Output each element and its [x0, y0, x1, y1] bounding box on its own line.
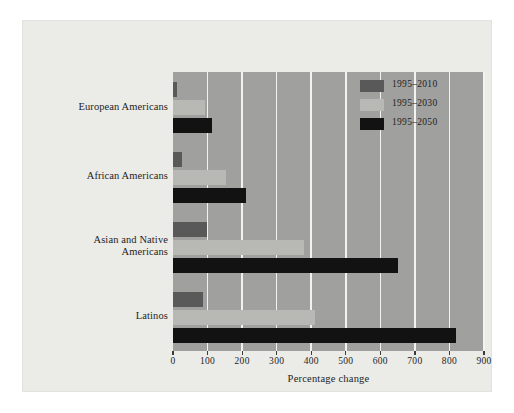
chart-page: European AmericansAfrican AmericansAsian…: [0, 0, 514, 413]
legend: 1995–20101995–20301995–2050: [360, 77, 470, 134]
bar: [173, 310, 315, 325]
x-tick-label-200: 200: [235, 356, 250, 366]
x-tick-400: [311, 351, 312, 355]
bar-group: [173, 222, 484, 273]
x-tick-900: [483, 351, 484, 355]
figure-panel: European AmericansAfrican AmericansAsian…: [22, 20, 492, 392]
bar: [173, 188, 246, 203]
x-tick-label-800: 800: [442, 356, 457, 366]
x-tick-label-300: 300: [269, 356, 284, 366]
category-axis-labels: European AmericansAfrican AmericansAsian…: [23, 72, 168, 351]
category-label: African Americans: [28, 170, 168, 183]
bar: [173, 328, 456, 343]
category-label-line: African Americans: [28, 170, 168, 183]
category-label-line: Asian and Native: [28, 234, 168, 247]
x-tick-label-600: 600: [373, 356, 388, 366]
category-label: European Americans: [28, 101, 168, 114]
bar: [173, 292, 203, 307]
x-tick-600: [380, 351, 381, 355]
x-tick-100: [207, 351, 208, 355]
x-tick-700: [414, 351, 415, 355]
bar: [173, 240, 304, 255]
x-tick-800: [449, 351, 450, 355]
bar: [173, 222, 207, 237]
legend-swatch: [360, 118, 384, 130]
x-tick-label-0: 0: [170, 356, 175, 366]
bar-group: [173, 152, 484, 203]
x-tick-label-100: 100: [200, 356, 215, 366]
legend-label: 1995–2050: [392, 117, 437, 127]
category-label-line: Latinos: [28, 310, 168, 323]
legend-item[interactable]: 1995–2050: [360, 115, 470, 134]
x-tick-label-700: 700: [407, 356, 422, 366]
legend-swatch: [360, 99, 384, 111]
x-tick-label-400: 400: [304, 356, 319, 366]
x-tick-200: [242, 351, 243, 355]
bar: [173, 100, 205, 115]
x-tick-300: [276, 351, 277, 355]
legend-label: 1995–2030: [392, 98, 437, 108]
x-axis: 0100200300400500600700800900: [173, 351, 484, 375]
category-label-line: Americans: [28, 246, 168, 259]
bar: [173, 258, 398, 273]
legend-swatch: [360, 80, 384, 92]
legend-item[interactable]: 1995–2010: [360, 77, 470, 96]
x-tick-label-900: 900: [476, 356, 491, 366]
legend-item[interactable]: 1995–2030: [360, 96, 470, 115]
category-label: Latinos: [28, 310, 168, 323]
bar: [173, 170, 226, 185]
x-tick-label-500: 500: [338, 356, 353, 366]
x-tick-0: [172, 351, 173, 355]
bar-group: [173, 292, 484, 343]
x-tick-500: [345, 351, 346, 355]
category-label-line: European Americans: [28, 101, 168, 114]
x-axis-title: Percentage change: [173, 373, 484, 384]
category-label: Asian and NativeAmericans: [28, 234, 168, 259]
bar: [173, 82, 177, 97]
bar: [173, 152, 182, 167]
legend-label: 1995–2010: [392, 79, 437, 89]
bar: [173, 118, 212, 133]
